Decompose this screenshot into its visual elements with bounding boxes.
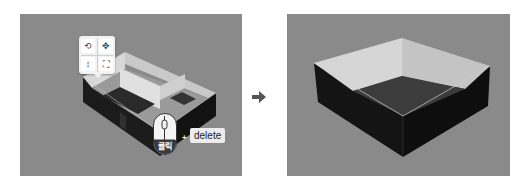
right-arrow-icon: [252, 91, 266, 103]
house-model-before: [20, 14, 242, 176]
delete-key-badge: delete: [190, 128, 225, 143]
fit-expand-icon[interactable]: ⛶: [99, 57, 113, 71]
mouse-icon: 클릭: [153, 113, 177, 155]
move-icon[interactable]: ✥: [99, 39, 113, 53]
vertical-resize-icon[interactable]: ↕: [81, 57, 95, 71]
click-label: 클릭: [154, 140, 176, 154]
house-model-after: [287, 14, 510, 176]
toolbar-divider: [81, 55, 113, 56]
rotate-view-icon[interactable]: ⟲: [81, 39, 95, 53]
model-edit-toolbar: ⟲ ✥ ↕ ⛶: [79, 36, 115, 74]
mouse-wheel-icon: [154, 114, 175, 140]
plus-sign: +: [182, 133, 187, 142]
before-panel: ⟲ ✥ ↕ ⛶ 클릭 + delete: [20, 14, 242, 176]
after-panel: [287, 14, 510, 176]
